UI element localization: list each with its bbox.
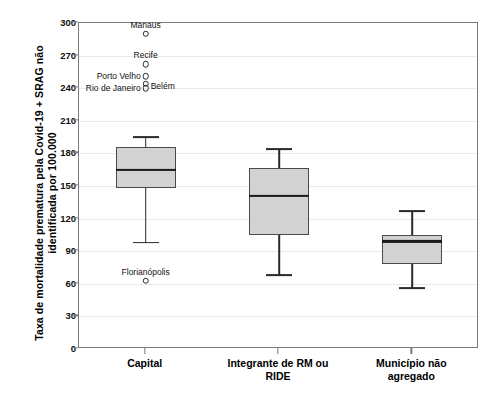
- y-axis-tick-label: 240: [30, 82, 76, 93]
- gridline: [79, 316, 477, 317]
- outlier-label: Florianópolis: [122, 267, 170, 277]
- outlier-point: [142, 277, 149, 284]
- y-axis-tick-label: 30: [30, 310, 76, 321]
- box: [382, 235, 442, 264]
- outlier-label: Manaus: [131, 20, 161, 30]
- outlier-point: [142, 61, 149, 68]
- y-axis-tick-mark: [73, 119, 78, 120]
- y-axis-tick-label: 90: [30, 245, 76, 256]
- y-axis-tick-label: 180: [30, 147, 76, 158]
- plot-area: ManausRecifePorto VelhoBelémRio de Janei…: [78, 22, 478, 348]
- y-axis-tick-label: 150: [30, 180, 76, 191]
- whisker-upper: [412, 211, 414, 235]
- outlier-point: [142, 73, 149, 80]
- x-axis-tick-mark: [277, 348, 278, 354]
- median-line: [382, 240, 442, 242]
- y-axis-tick-label: 0: [30, 343, 76, 354]
- x-axis-tick-mark: [144, 348, 145, 354]
- x-axis-category-label: Município não agregado: [336, 357, 486, 383]
- outlier-point: [142, 85, 149, 92]
- y-axis-tick-mark: [73, 184, 78, 185]
- whisker-cap-upper: [133, 136, 159, 138]
- box: [249, 168, 309, 235]
- y-axis-tick-mark: [73, 347, 78, 348]
- outlier-label: Porto Velho: [97, 71, 141, 81]
- whisker-lower: [145, 188, 147, 242]
- y-axis-tick-label: 60: [30, 277, 76, 288]
- gridline: [79, 121, 477, 122]
- y-axis-tick-mark: [73, 217, 78, 218]
- y-axis-tick-mark: [73, 21, 78, 22]
- box: [116, 147, 176, 188]
- whisker-cap-upper: [399, 210, 425, 212]
- whisker-cap-lower: [133, 242, 159, 244]
- y-axis-title: Taxa de mortalidade prematura pela Covid…: [33, 28, 59, 358]
- outlier-label: Rio de Janeiro: [86, 83, 141, 93]
- y-axis-tick-mark: [73, 87, 78, 88]
- y-axis-tick-mark: [73, 250, 78, 251]
- median-line: [249, 195, 309, 197]
- y-axis-tick-label: 300: [30, 17, 76, 28]
- y-axis-tick-label: 210: [30, 114, 76, 125]
- y-axis-tick-mark: [73, 315, 78, 316]
- y-axis-tick-mark: [73, 152, 78, 153]
- outlier-label: Recife: [134, 50, 158, 60]
- whisker-cap-lower: [399, 287, 425, 289]
- y-axis-tick-mark: [73, 54, 78, 55]
- whisker-lower: [278, 235, 280, 275]
- y-axis-tick-mark: [73, 282, 78, 283]
- y-axis-tick-label: 270: [30, 49, 76, 60]
- boxplot-chart: Taxa de mortalidade prematura pela Covid…: [0, 0, 499, 396]
- outlier-label: Belém: [151, 81, 175, 91]
- whisker-cap-lower: [266, 274, 292, 276]
- median-line: [116, 169, 176, 171]
- x-axis-tick-mark: [411, 348, 412, 354]
- gridline: [79, 284, 477, 285]
- x-axis-category-label: Capital: [70, 357, 220, 370]
- whisker-upper: [278, 149, 280, 167]
- outlier-point: [142, 31, 149, 38]
- whisker-upper: [145, 137, 147, 147]
- y-axis-tick-label: 120: [30, 212, 76, 223]
- whisker-lower: [412, 264, 414, 288]
- x-axis-category-label: Integrante de RM ou RIDE: [203, 357, 353, 383]
- whisker-cap-upper: [266, 148, 292, 150]
